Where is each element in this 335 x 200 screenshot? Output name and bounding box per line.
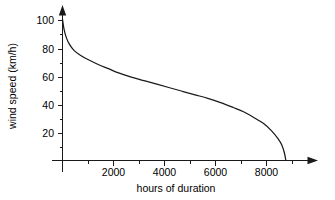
x-tick-label-2000: 2000 (102, 166, 126, 178)
x-axis-title: hours of duration (137, 182, 216, 194)
y-tick-label-20: 20 (42, 127, 54, 139)
x-axis (52, 157, 318, 164)
y-axis-title: wind speed (km/h) (6, 43, 18, 130)
y-tick-label-40: 40 (42, 99, 54, 111)
wind-speed-duration-curve (63, 19, 286, 160)
chart-figure: 100 80 60 40 20 2000 4000 6000 8000 hour… (0, 0, 335, 200)
x-tick-label-8000: 8000 (255, 166, 279, 178)
wind-speed-duration-chart: 100 80 60 40 20 2000 4000 6000 8000 hour… (0, 0, 335, 200)
x-tick-label-4000: 4000 (153, 166, 177, 178)
y-tick-label-80: 80 (42, 43, 54, 55)
x-axis-arrow-icon (308, 157, 319, 164)
y-axis-tick-labels: 100 80 60 40 20 (36, 14, 54, 139)
x-tick-label-6000: 6000 (204, 166, 228, 178)
x-axis-tick-labels: 2000 4000 6000 8000 (102, 166, 279, 178)
y-axis-major-ticks (58, 21, 63, 134)
y-tick-label-100: 100 (36, 14, 54, 26)
y-axis (59, 5, 66, 172)
y-tick-label-60: 60 (42, 71, 54, 83)
y-axis-arrow-icon (59, 5, 66, 16)
